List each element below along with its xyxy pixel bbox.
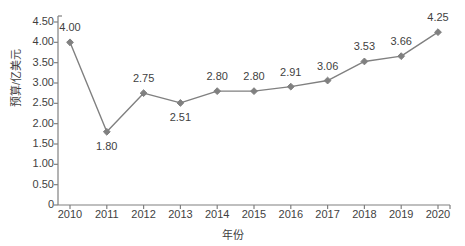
data-point-marker (361, 58, 368, 65)
data-point-marker (324, 77, 331, 84)
data-point-label: 2.51 (158, 111, 202, 123)
x-axis-title: 年份 (0, 226, 465, 242)
data-point-marker (214, 88, 221, 95)
data-point-label: 4.00 (48, 21, 92, 33)
data-point-label: 1.80 (85, 140, 129, 152)
line-chart: 预算/亿美元 00.501.001.502.002.503.003.504.00… (0, 0, 465, 246)
data-point-label: 4.25 (416, 11, 460, 23)
data-point-label: 2.75 (122, 72, 166, 84)
data-point-label: 3.66 (379, 35, 423, 47)
data-point-marker (177, 100, 184, 107)
data-point-marker (67, 39, 74, 46)
data-point-label: 3.06 (306, 60, 350, 72)
data-point-marker (251, 88, 258, 95)
data-point-marker (287, 83, 294, 90)
